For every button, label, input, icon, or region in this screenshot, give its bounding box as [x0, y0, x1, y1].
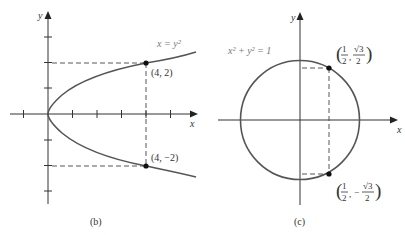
point-4-neg2	[143, 163, 148, 168]
svg-text:,: ,	[349, 52, 351, 62]
figure: y x x = y² (4, 2) (4, −2) (b) y x x² + y…	[0, 0, 405, 235]
y-axis-arrow-icon	[297, 12, 304, 20]
point-label-4-2: (4, 2)	[151, 67, 173, 79]
svg-text:2: 2	[342, 193, 347, 203]
panel-c: y x x² + y² = 1 ( 1 2 , √3 2 ) ( 1 2 , −…	[218, 12, 402, 228]
parabola-equation: x = y²	[156, 38, 182, 49]
svg-text:2: 2	[342, 56, 347, 66]
x-axis-arrow-icon	[190, 111, 198, 118]
x-axis-label: x	[189, 118, 195, 129]
point-lower	[326, 171, 331, 176]
svg-text:): )	[375, 180, 381, 202]
svg-text:√3: √3	[363, 181, 373, 191]
point-label-4-neg2: (4, −2)	[151, 152, 178, 164]
caption-c: (c)	[294, 216, 305, 228]
svg-text:,: ,	[349, 189, 351, 199]
svg-text:): )	[366, 43, 372, 65]
y-axis-label: y	[37, 10, 43, 21]
point-4-2	[143, 60, 148, 65]
svg-text:2: 2	[356, 56, 361, 66]
svg-text:2: 2	[365, 193, 370, 203]
circle-equation: x² + y² = 1	[227, 45, 271, 56]
point-label-lower: ( 1 2 , − √3 2 )	[336, 180, 381, 203]
x-axis-arrow-icon	[390, 117, 398, 124]
svg-text:−: −	[354, 187, 359, 197]
svg-text:√3: √3	[354, 44, 364, 54]
caption-b: (b)	[90, 216, 102, 228]
svg-text:1: 1	[342, 181, 347, 191]
y-axis-arrow-icon	[45, 11, 52, 19]
point-label-upper: ( 1 2 , √3 2 )	[336, 43, 372, 66]
svg-text:1: 1	[342, 44, 347, 54]
x-axis-label: x	[396, 124, 402, 135]
point-upper	[326, 65, 331, 70]
y-axis-label: y	[290, 12, 296, 23]
panel-b: y x x = y² (4, 2) (4, −2) (b)	[10, 10, 198, 228]
